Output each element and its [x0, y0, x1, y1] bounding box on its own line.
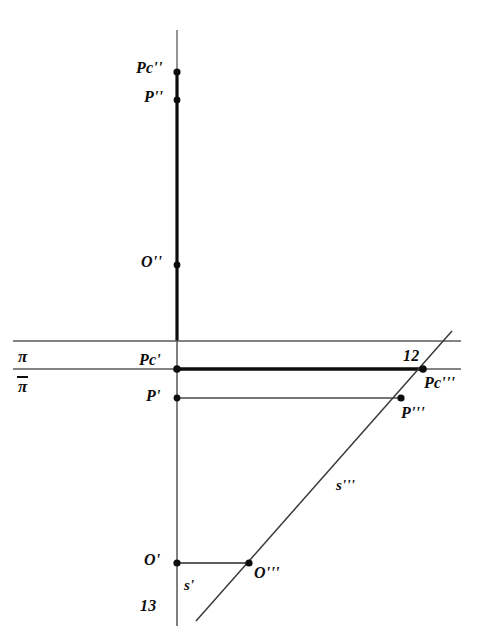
label-plane-pi-bar-text: π — [18, 377, 27, 395]
projection-figure: Pc'' P'' O'' Pc' P' O' Pc''' P''' O''' s… — [0, 0, 479, 632]
point-p-second — [174, 97, 181, 104]
label-p-first: P' — [146, 388, 161, 404]
label-o-third: O''' — [254, 565, 280, 581]
label-o-second: O'' — [141, 254, 162, 270]
point-pc-second — [173, 68, 180, 75]
figure-canvas — [0, 0, 479, 632]
point-o-second — [174, 262, 181, 269]
label-p-third: P''' — [401, 405, 425, 421]
label-s-third: s''' — [336, 478, 355, 493]
point-p-first — [174, 395, 181, 402]
label-number-13: 13 — [140, 598, 156, 614]
point-o-first — [173, 559, 180, 566]
label-s-first: s' — [184, 578, 194, 593]
point-o-third — [245, 559, 252, 566]
label-pc-second: Pc'' — [136, 60, 163, 76]
point-pc-third — [419, 365, 427, 373]
label-plane-pi: π — [18, 348, 27, 365]
point-p-third — [397, 394, 404, 401]
label-pc-third: Pc''' — [424, 375, 455, 391]
oblique-line-s3 — [196, 331, 452, 621]
label-number-12: 12 — [403, 348, 419, 364]
label-plane-pi-bar: π — [18, 377, 27, 395]
label-pc-first: Pc' — [139, 352, 161, 368]
label-o-first: O' — [144, 552, 160, 568]
label-p-second: P'' — [144, 89, 163, 105]
point-pc-first — [173, 365, 181, 373]
